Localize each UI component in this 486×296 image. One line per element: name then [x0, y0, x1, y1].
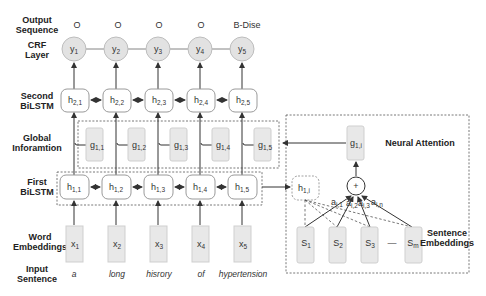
crf-node: y2: [104, 37, 128, 61]
sentence-node: S2: [329, 227, 346, 263]
svg-text:Sequence: Sequence: [16, 25, 59, 35]
output-sequence: O O O O B-Dise: [73, 20, 260, 30]
row-label-word-embeddings: Word Embeddings: [13, 232, 67, 252]
bilstm1-node: h1,1: [60, 175, 89, 199]
word-embeddings-layer: x1 x2 x3 x4 x5: [66, 226, 251, 262]
ellipsis: —: [388, 238, 397, 248]
sum-node: +: [347, 177, 365, 195]
sentence-node: S1: [297, 227, 314, 263]
input-word: a: [72, 269, 77, 279]
row-label-crf-layer: CRF Layer: [25, 40, 50, 60]
crf-node: y5: [230, 37, 254, 61]
word-embedding-node: x4: [192, 226, 209, 262]
svg-text:First: First: [27, 177, 47, 187]
crf-node: y1: [62, 37, 86, 61]
input-word: hisrory: [146, 269, 172, 279]
output-tag: O: [114, 20, 121, 30]
attention-query-node: h1,i: [292, 176, 319, 200]
output-tag: O: [155, 20, 162, 30]
sentence-embeddings-layer: S1 S2 S3 — Sm: [297, 227, 422, 263]
svg-text:Word: Word: [29, 232, 52, 242]
arrows-to-crf: [74, 63, 242, 89]
svg-text:Inforamtion: Inforamtion: [12, 143, 62, 153]
svg-text:BiLSTM: BiLSTM: [20, 187, 54, 197]
word-embedding-node: x3: [150, 226, 167, 262]
output-tag: B-Dise: [233, 20, 260, 30]
bilstm2-node: h2,3: [145, 89, 173, 112]
svg-text:Sentence: Sentence: [427, 228, 467, 238]
svg-text:Embeddings: Embeddings: [13, 242, 67, 252]
global-node: g1,2: [128, 128, 146, 161]
svg-text:Embeddings: Embeddings: [420, 238, 474, 248]
svg-text:CRF: CRF: [28, 40, 47, 50]
crf-layer: y1 y2 y3 y4 y5: [62, 37, 254, 61]
row-label-global-information: Global Inforamtion: [12, 133, 62, 153]
svg-text:ai,1: ai,1: [331, 197, 343, 208]
global-node: g1,4: [212, 128, 230, 161]
crf-node: y4: [188, 37, 212, 61]
svg-text:Global: Global: [23, 133, 51, 143]
input-word: hypertension: [219, 269, 268, 279]
bilstm2-node: h2,2: [103, 89, 131, 112]
output-tag: O: [197, 20, 204, 30]
bilstm1-node: h1,5: [228, 175, 257, 199]
svg-text:ai,n: ai,n: [371, 197, 383, 208]
sentence-node: S3: [361, 227, 378, 263]
input-sentence: a long hisrory of hypertension: [72, 269, 268, 279]
global-node: g1,5: [254, 128, 272, 161]
svg-text:Sentence: Sentence: [17, 274, 57, 284]
input-word: of: [197, 269, 206, 279]
bilstm1-node: h1,4: [186, 175, 215, 199]
word-embedding-node: x5: [234, 226, 251, 262]
attention-weights: ai,1 ai,2 ai,3 ai,n: [331, 197, 383, 209]
neural-attention-title: Neural Attention: [385, 138, 455, 148]
svg-text:Layer: Layer: [25, 50, 50, 60]
second-bilstm-layer: h2,1 h2,2 h2,3 h2,4 h2,5: [61, 89, 257, 112]
svg-text:Input: Input: [26, 264, 48, 274]
output-tag: O: [73, 20, 80, 30]
attention-output-node: g1,i: [347, 126, 364, 160]
word-embedding-node: x1: [66, 226, 83, 262]
word-embedding-node: x2: [108, 226, 125, 262]
global-node: g1,1: [86, 128, 104, 161]
crf-node: y3: [146, 37, 170, 61]
bilstm2-node: h2,5: [229, 89, 257, 112]
row-label-first-bilstm: First BiLSTM: [20, 177, 54, 197]
architecture-diagram: Output Sequence CRF Layer Second BiLSTM …: [0, 0, 486, 296]
bilstm2-node: h2,1: [61, 89, 89, 112]
bilstm2-node: h2,4: [187, 89, 215, 112]
svg-text:Output: Output: [22, 15, 52, 25]
svg-text:+: +: [353, 181, 358, 191]
bilstm1-node: h1,2: [102, 175, 131, 199]
row-label-input-sentence: Input Sentence: [17, 264, 57, 284]
svg-text:Second: Second: [21, 91, 54, 101]
sentence-embeddings-label: Sentence Embeddings: [420, 228, 474, 248]
global-node: g1,3: [170, 128, 188, 161]
svg-text:BiLSTM: BiLSTM: [20, 101, 54, 111]
row-label-output-sequence: Output Sequence: [16, 15, 59, 35]
bilstm1-node: h1,3: [144, 175, 173, 199]
input-word: long: [109, 269, 125, 279]
first-bilstm-layer: h1,1 h1,2 h1,3 h1,4 h1,5: [60, 175, 257, 199]
row-label-second-bilstm: Second BiLSTM: [20, 91, 54, 111]
